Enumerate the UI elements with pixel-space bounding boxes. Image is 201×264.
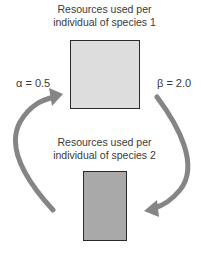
beta-arrow-icon [144, 97, 188, 217]
effect-arrows [0, 0, 201, 264]
alpha-arrow-icon [15, 88, 63, 210]
